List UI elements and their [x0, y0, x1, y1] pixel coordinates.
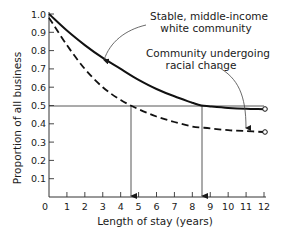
y-tick-label: 0.3 — [31, 137, 46, 148]
x-tick-label: 10 — [222, 201, 234, 212]
y-tick-label: 0.2 — [31, 155, 46, 166]
end-marker-stable — [263, 107, 268, 112]
x-tick-label: 1 — [64, 201, 70, 212]
y-tick-label: 0.7 — [31, 63, 46, 74]
x-tick-label: 5 — [136, 201, 142, 212]
annotation-racial-change-line2: racial change — [166, 59, 237, 71]
x-tick-label: 6 — [153, 201, 159, 212]
x-tick-label: 11 — [240, 201, 252, 212]
x-ticks: 0123456789101112 — [42, 192, 270, 212]
x-tick-label: 3 — [100, 201, 106, 212]
y-tick-label: 0.5 — [31, 100, 46, 111]
y-tick-label: 0.9 — [31, 27, 46, 38]
y-ticks: 0.10.20.30.40.50.60.70.80.91.0 — [31, 9, 54, 185]
leader-arrow-stable — [104, 25, 146, 60]
y-tick-label: 0.6 — [31, 82, 46, 93]
series-racial-change — [49, 18, 264, 132]
leader-arrow-racial-change — [218, 67, 246, 128]
annotation-stable-line1: Stable, middle-income — [150, 10, 268, 22]
y-axis-title: Proportion of all business — [11, 52, 23, 184]
y-tick-label: 1.0 — [31, 9, 46, 20]
axes — [49, 12, 266, 197]
y-tick-label: 0.1 — [31, 173, 46, 184]
x-tick-label: 7 — [171, 201, 177, 212]
x-tick-label: 0 — [42, 201, 48, 212]
end-marker-racial-change — [263, 130, 268, 135]
x-tick-label: 9 — [207, 201, 213, 212]
y-tick-label: 0.8 — [31, 45, 46, 56]
annotation-stable-line2: white community — [160, 22, 251, 34]
x-axis-title: Length of stay (years) — [97, 215, 213, 227]
x-tick-label: 12 — [258, 201, 270, 212]
x-tick-label: 8 — [189, 201, 195, 212]
annotation-racial-change-line1: Community undergoing — [146, 47, 270, 59]
chart: 0.10.20.30.40.50.60.70.80.91.0 012345678… — [0, 0, 282, 236]
x-tick-label: 4 — [118, 201, 124, 212]
x-tick-label: 2 — [82, 201, 88, 212]
y-tick-label: 0.4 — [31, 118, 46, 129]
